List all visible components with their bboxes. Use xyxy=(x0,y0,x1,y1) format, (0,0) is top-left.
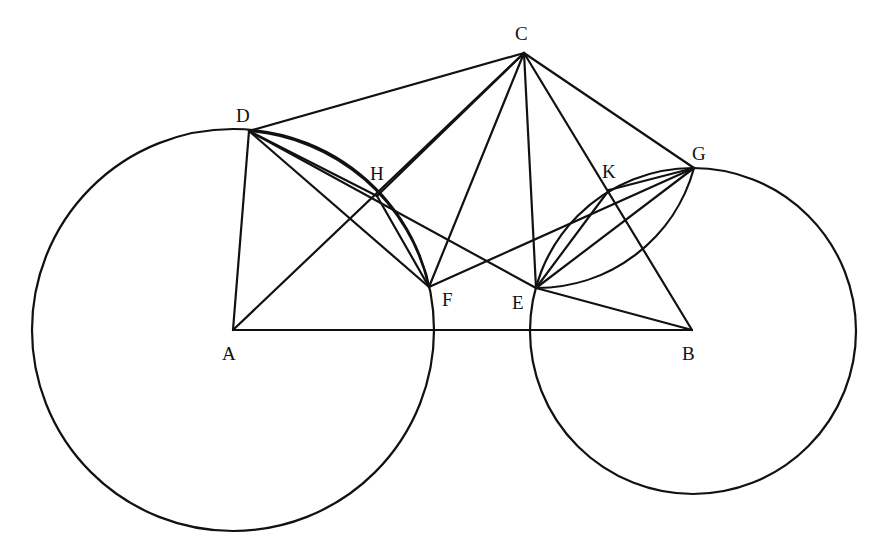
label-K: K xyxy=(602,161,616,182)
label-E: E xyxy=(512,292,524,313)
point-labels: ABCDEFGHK xyxy=(222,23,706,364)
segments xyxy=(233,53,694,330)
segment-CG xyxy=(524,53,694,168)
segment-EB xyxy=(536,288,692,330)
label-F: F xyxy=(442,289,453,310)
segment-DE xyxy=(249,131,536,288)
segment-DF xyxy=(249,131,429,287)
arcs xyxy=(249,131,694,288)
segment-KE xyxy=(536,190,609,288)
segment-HF xyxy=(377,196,429,287)
label-A: A xyxy=(222,343,236,364)
label-H: H xyxy=(370,163,384,184)
geometry-diagram: ABCDEFGHK xyxy=(0,0,876,552)
label-G: G xyxy=(692,143,706,164)
segment-CE xyxy=(524,53,536,288)
label-C: C xyxy=(515,23,528,44)
segment-AD xyxy=(233,131,249,330)
label-D: D xyxy=(236,105,250,126)
label-B: B xyxy=(682,343,695,364)
